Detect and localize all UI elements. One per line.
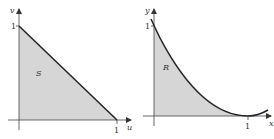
y-axis-label: y	[144, 6, 150, 15]
x-tick-label: 1	[245, 122, 250, 131]
y-axis-label: v	[10, 6, 15, 15]
y-tick-label: 1	[145, 22, 150, 31]
region-label-s: S	[36, 69, 42, 78]
x-tick-label: 1	[114, 126, 119, 135]
figure-canvas: v 1 1 u S y 1 1 x R	[0, 0, 274, 139]
panel-triangle-s: v 1 1 u S	[8, 6, 132, 135]
region-label-r: R	[162, 63, 169, 72]
x-axis-label: u	[127, 123, 132, 132]
panel-curve-r: y 1 1 x R	[143, 6, 274, 131]
y-tick-label: 1	[11, 22, 16, 31]
x-axis-label: x	[269, 119, 274, 128]
